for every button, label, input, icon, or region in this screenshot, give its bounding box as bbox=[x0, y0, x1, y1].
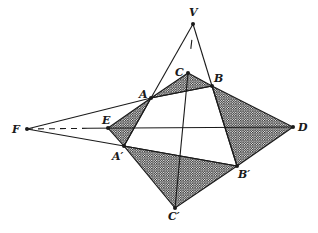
line-v-c-dashed bbox=[188, 30, 193, 73]
shaded-triangle-eaa-prime bbox=[108, 98, 151, 146]
label-f: F bbox=[11, 123, 21, 136]
label-a: A bbox=[138, 88, 148, 101]
point-a-prime bbox=[122, 144, 126, 148]
label-c-prime: C′ bbox=[168, 210, 180, 223]
label-b-prime: B′ bbox=[237, 168, 250, 181]
line-f-a-prime bbox=[27, 129, 124, 146]
label-c: C bbox=[175, 66, 184, 79]
label-d: D bbox=[297, 121, 308, 134]
desargues-diagram: V C B A F E D A′ B′ C′ bbox=[0, 0, 318, 233]
line-f-e-dashed bbox=[27, 128, 88, 129]
label-a-prime: A′ bbox=[111, 150, 124, 163]
label-v: V bbox=[189, 6, 199, 19]
point-v bbox=[191, 22, 195, 26]
point-f bbox=[25, 127, 29, 131]
label-e: E bbox=[101, 114, 111, 127]
point-a bbox=[149, 96, 153, 100]
label-b: B bbox=[213, 72, 223, 85]
point-d bbox=[291, 125, 295, 129]
point-c bbox=[186, 71, 190, 75]
